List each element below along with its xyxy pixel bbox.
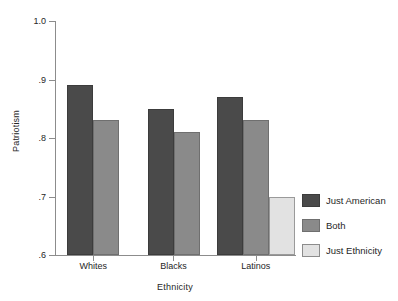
legend-swatch-icon [302, 219, 320, 232]
legend-swatch-icon [302, 194, 320, 207]
bar-chart: Patriotism Ethnicity 1.0.9.8.7.6 WhitesB… [0, 0, 398, 301]
legend-label: Just American [326, 195, 386, 206]
y-tick-mark [49, 21, 55, 22]
bar-whites-just-american [67, 85, 93, 255]
y-axis-line [55, 21, 56, 256]
y-tick-mark [49, 138, 55, 139]
y-tick-label: .9 [10, 75, 46, 85]
y-tick-mark [49, 197, 55, 198]
legend-item-just-ethnicity: Just Ethnicity [302, 238, 386, 263]
y-axis-title: Patriotism [11, 91, 21, 171]
y-tick-label: .7 [10, 192, 46, 202]
legend-label: Both [326, 220, 346, 231]
x-tick-label-blacks: Blacks [129, 261, 219, 271]
bar-blacks-just-american [148, 109, 174, 255]
legend-item-both: Both [302, 213, 386, 238]
bar-latinos-just-american [217, 97, 243, 255]
legend-item-just-american: Just American [302, 188, 386, 213]
legend-swatch-icon [302, 244, 320, 257]
y-tick-label: 1.0 [10, 16, 46, 26]
bar-latinos-just-ethnicity [269, 197, 295, 256]
y-tick-mark [49, 80, 55, 81]
x-tick-label-latinos: Latinos [211, 261, 301, 271]
legend: Just AmericanBothJust Ethnicity [302, 188, 386, 263]
bar-latinos-both [243, 120, 269, 255]
x-axis-title: Ethnicity [55, 282, 295, 292]
legend-label: Just Ethnicity [326, 245, 382, 256]
x-tick-label-whites: Whites [48, 261, 138, 271]
y-tick-label: .6 [10, 250, 46, 260]
y-tick-mark [49, 255, 55, 256]
x-axis-line [55, 255, 296, 256]
bar-blacks-both [174, 132, 200, 255]
bar-whites-both [93, 120, 119, 255]
y-tick-label: .8 [10, 133, 46, 143]
